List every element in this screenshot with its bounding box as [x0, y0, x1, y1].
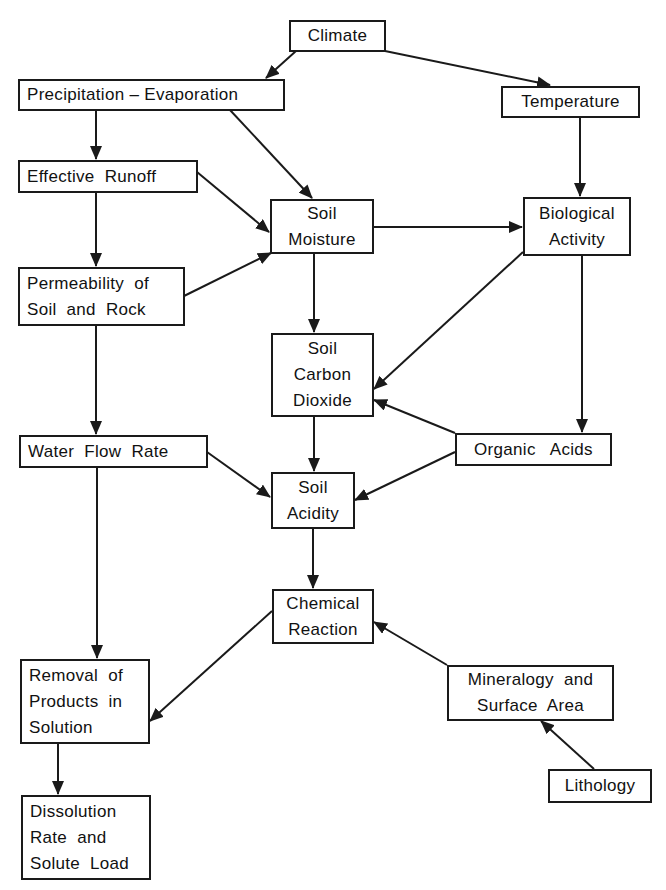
node-label-line: Soil and Rock — [27, 297, 146, 323]
edge-permeability-moisture — [184, 253, 271, 296]
node-label-line: Solution — [29, 715, 93, 741]
node-label-line: Soil — [308, 336, 338, 362]
edge-chemical-removal — [150, 611, 272, 721]
node-soil-carbon-dioxide: Soil Carbon Dioxide — [271, 333, 374, 417]
node-soil-acidity: Soil Acidity — [271, 472, 355, 529]
flowchart: Climate Precipitation – Evaporation Temp… — [0, 0, 666, 890]
edge-climate-temperature — [385, 51, 550, 85]
edge-lithology-mineralogy — [541, 721, 594, 769]
edge-runoff-moisture — [197, 172, 269, 232]
node-precipitation-evaporation: Precipitation – Evaporation — [18, 79, 285, 111]
node-label-line: Products in — [29, 689, 122, 715]
node-permeability: Permeability of Soil and Rock — [18, 267, 185, 326]
node-label-line: Permeability of — [27, 271, 149, 297]
edge-organic-acidity — [355, 452, 455, 500]
node-label: Climate — [308, 23, 368, 49]
node-removal-products: Removal of Products in Solution — [20, 659, 150, 744]
node-label-line: Moisture — [288, 227, 356, 253]
node-label: Lithology — [565, 773, 636, 799]
node-water-flow-rate: Water Flow Rate — [19, 435, 208, 468]
node-label-line: Dioxide — [293, 388, 352, 414]
node-label-line: Surface Area — [477, 693, 584, 719]
node-soil-moisture: Soil Moisture — [270, 199, 374, 254]
node-lithology: Lithology — [548, 769, 652, 803]
node-label-line: Mineralogy and — [468, 667, 593, 693]
node-label-line: Biological — [539, 201, 615, 227]
node-label: Water Flow Rate — [28, 439, 169, 465]
edge-mineralogy-chemical — [374, 622, 447, 665]
node-label: Effective Runoff — [27, 164, 156, 190]
edge-organic-co2 — [374, 400, 455, 433]
node-climate: Climate — [289, 20, 386, 52]
node-label: Organic Acids — [474, 437, 593, 463]
node-label-line: Soil — [307, 201, 337, 227]
node-label-line: Chemical — [286, 591, 359, 617]
node-label: Precipitation – Evaporation — [27, 82, 238, 108]
node-label-line: Solute Load — [30, 851, 129, 877]
edge-waterflow-acidity — [207, 452, 270, 497]
node-biological-activity: Biological Activity — [523, 197, 631, 256]
node-label-line: Dissolution — [30, 799, 116, 825]
node-temperature: Temperature — [501, 86, 640, 118]
node-label-line: Carbon — [294, 362, 352, 388]
node-label-line: Reaction — [288, 617, 358, 643]
node-dissolution-rate: Dissolution Rate and Solute Load — [21, 795, 151, 880]
node-organic-acids: Organic Acids — [455, 433, 612, 466]
edge-precip-moisture — [230, 110, 312, 198]
node-label-line: Soil — [298, 475, 328, 501]
node-label-line: Activity — [549, 227, 605, 253]
node-label-line: Rate and — [30, 825, 106, 851]
node-label-line: Acidity — [287, 501, 339, 527]
edge-bio-co2 — [374, 252, 523, 389]
node-chemical-reaction: Chemical Reaction — [272, 589, 374, 644]
edge-climate-precip — [266, 51, 296, 78]
node-label-line: Removal of — [29, 663, 123, 689]
node-label: Temperature — [521, 89, 620, 115]
node-mineralogy-surface-area: Mineralogy and Surface Area — [447, 665, 614, 721]
node-effective-runoff: Effective Runoff — [18, 160, 198, 193]
